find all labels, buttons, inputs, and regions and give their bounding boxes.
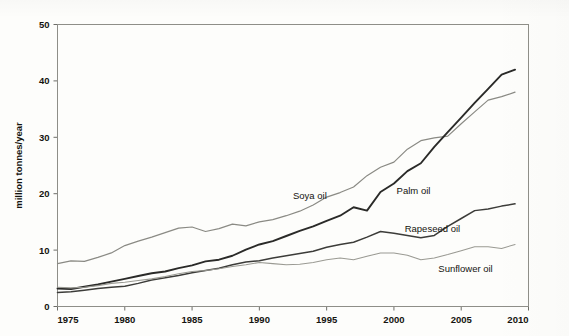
y-tick-label: 30 — [39, 132, 50, 143]
y-tick-label: 10 — [39, 245, 50, 256]
x-tick-label: 1975 — [58, 314, 80, 325]
y-tick-label: 50 — [39, 19, 50, 30]
y-axis-title-group: million tonnes/year — [13, 122, 24, 209]
x-tick-label: 1990 — [249, 314, 270, 325]
y-tick-label: 20 — [39, 188, 50, 199]
x-tick-label: 1980 — [114, 314, 135, 325]
series-lines-group — [58, 70, 516, 293]
x-tick-label: 1985 — [182, 314, 204, 325]
series-line-soya-oil — [58, 92, 516, 263]
axis-ticks-group: 0102030405019751980198519901995200020052… — [39, 19, 529, 325]
series-label-palm-oil: Palm oil — [397, 185, 431, 196]
x-tick-label: 2000 — [383, 314, 404, 325]
series-label-sunflower-oil: Sunflower oil — [438, 263, 492, 274]
y-tick-label: 0 — [44, 301, 49, 312]
chart-page: million tonnes/year 01020304050197519801… — [0, 0, 569, 336]
series-label-rapeseed-oil: Rapeseed oil — [405, 223, 460, 234]
series-label-soya-oil: Soya oil — [293, 190, 327, 201]
y-axis-title: million tonnes/year — [13, 122, 24, 209]
x-tick-label: 2005 — [451, 314, 473, 325]
x-tick-label: 2010 — [507, 314, 528, 325]
x-tick-label: 1995 — [316, 314, 338, 325]
line-chart: million tonnes/year 01020304050197519801… — [0, 0, 569, 336]
y-tick-label: 40 — [39, 75, 50, 86]
